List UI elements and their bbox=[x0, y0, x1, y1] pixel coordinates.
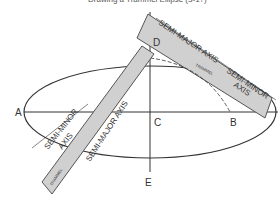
trammel-ellipse-diagram: TRAMMEL SEMI-MAJOR AXIS SEMI-MINOR AXIS … bbox=[0, 0, 280, 207]
point-d-label: D bbox=[153, 37, 160, 48]
point-b-label: B bbox=[230, 117, 237, 128]
point-e-label: E bbox=[145, 177, 152, 188]
point-a-label: A bbox=[15, 107, 22, 118]
trammel-lower: SEMI-MAJOR AXIS TRAMMEL bbox=[42, 46, 154, 194]
point-c-label: C bbox=[154, 117, 161, 128]
